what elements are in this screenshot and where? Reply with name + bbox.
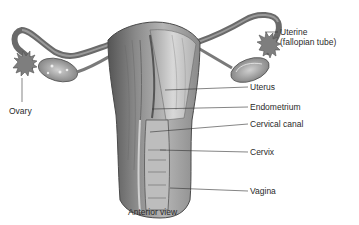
label-vagina: Vagina [250, 186, 276, 196]
label-cervical-canal: Cervical canal [250, 119, 303, 129]
view-caption: Anterior view [128, 207, 177, 217]
female-reproductive-anatomy-diagram: Uterine (fallopian tube) Ovary Uterus En… [0, 0, 359, 225]
label-uterine-tube-line1: Uterine [280, 27, 336, 37]
label-uterine-tube: Uterine (fallopian tube) [280, 27, 336, 47]
right-fallopian-tube [198, 15, 281, 58]
label-ovary: Ovary [9, 106, 32, 116]
label-endometrium: Endometrium [250, 102, 301, 112]
label-uterus: Uterus [250, 82, 275, 92]
label-cervix: Cervix [250, 147, 274, 157]
label-uterine-tube-line2: (fallopian tube) [280, 37, 336, 47]
left-ovary [36, 54, 112, 86]
